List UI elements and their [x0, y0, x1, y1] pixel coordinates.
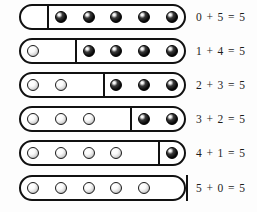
bead-group [19, 4, 186, 30]
five-frame-bar [19, 38, 186, 64]
dark-bead [166, 45, 178, 57]
five-frame-bar [19, 72, 186, 98]
dark-bead [83, 45, 95, 57]
light-bead [55, 79, 67, 91]
light-bead [55, 147, 67, 159]
part-divider [186, 175, 188, 201]
light-bead [83, 182, 95, 194]
bead-group [19, 140, 186, 166]
five-frame-bar [19, 140, 186, 166]
bond-row: 2 + 3 = 5 [0, 68, 257, 102]
light-bead [55, 182, 67, 194]
bead-group [19, 175, 186, 201]
bond-row: 1 + 4 = 5 [0, 34, 257, 68]
dark-bead [55, 11, 67, 23]
dark-bead [166, 147, 178, 159]
equation-label: 1 + 4 = 5 [196, 34, 246, 68]
bond-row: 0 + 5 = 5 [0, 0, 257, 34]
five-frame-bar [19, 4, 186, 30]
equation-label: 2 + 3 = 5 [196, 68, 246, 102]
bead-group [19, 38, 186, 64]
dark-bead [166, 11, 178, 23]
light-bead [110, 147, 122, 159]
light-bead [27, 45, 39, 57]
bond-row: 4 + 1 = 5 [0, 136, 257, 170]
bead-group [19, 106, 186, 132]
light-bead [55, 113, 67, 125]
light-bead [27, 147, 39, 159]
light-bead [83, 147, 95, 159]
bead-group [19, 72, 186, 98]
five-frame-bar [19, 175, 186, 201]
dark-bead [110, 45, 122, 57]
five-frame-bar [19, 106, 186, 132]
dark-bead [83, 11, 95, 23]
equation-label: 3 + 2 = 5 [196, 102, 246, 136]
number-bond-diagram: 0 + 5 = 5 1 + 4 = 5 2 + 3 = 5 3 + 2 = 5 [0, 0, 257, 212]
dark-bead [110, 79, 122, 91]
light-bead [27, 113, 39, 125]
bond-row: 5 + 0 = 5 [0, 171, 257, 205]
light-bead [27, 79, 39, 91]
equation-label: 5 + 0 = 5 [196, 171, 246, 205]
dark-bead [166, 79, 178, 91]
light-bead [83, 113, 95, 125]
dark-bead [166, 113, 178, 125]
light-bead [27, 182, 39, 194]
dark-bead [110, 11, 122, 23]
dark-bead [138, 113, 150, 125]
light-bead [110, 182, 122, 194]
equation-label: 0 + 5 = 5 [196, 0, 246, 34]
dark-bead [138, 45, 150, 57]
equation-label: 4 + 1 = 5 [196, 136, 246, 170]
light-bead [138, 182, 150, 194]
dark-bead [138, 11, 150, 23]
dark-bead [138, 79, 150, 91]
bond-row: 3 + 2 = 5 [0, 102, 257, 136]
